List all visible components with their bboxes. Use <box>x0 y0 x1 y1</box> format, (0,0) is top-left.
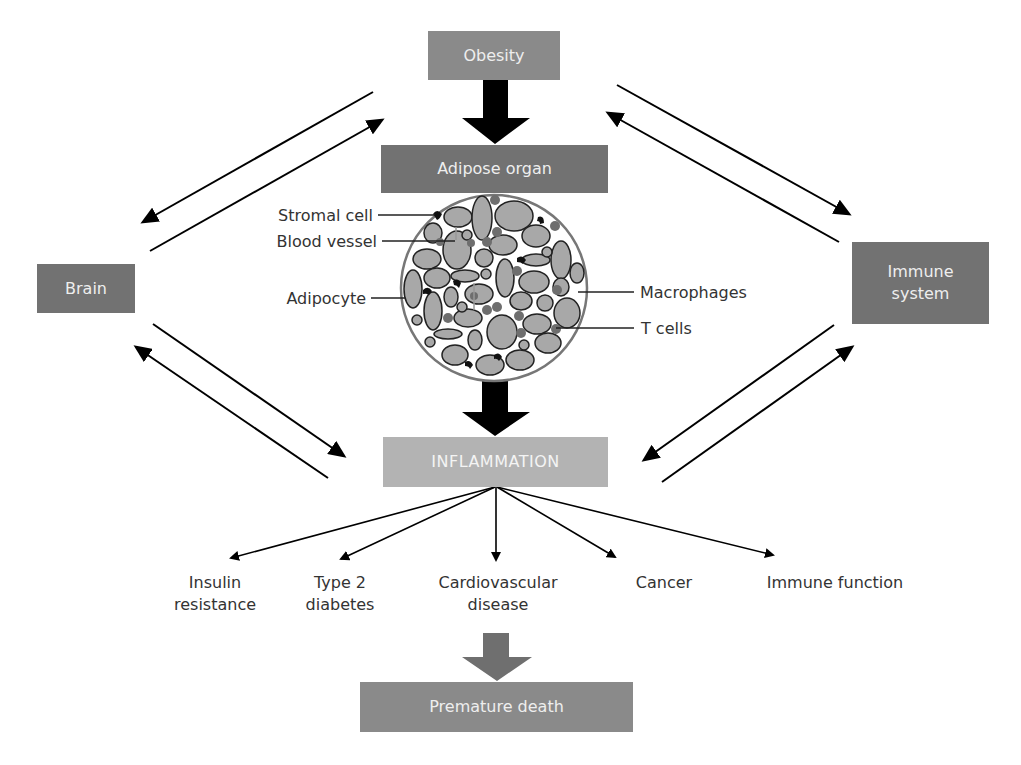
outcome-cardiovascular-disease: Cardiovascular disease <box>425 572 571 616</box>
arrow-to-premature-death <box>462 633 532 681</box>
brain-node: Brain <box>37 264 135 313</box>
outcome-line1: Cardiovascular <box>425 572 571 594</box>
diagram-connectors <box>0 0 1021 765</box>
macrophages-label: Macrophages <box>640 282 747 303</box>
outcome-line1: Cancer <box>614 572 714 594</box>
outcome-immune-function: Immune function <box>760 572 910 594</box>
outcome-cancer: Cancer <box>614 572 714 594</box>
arrow-obesity-to-adipose <box>462 80 530 144</box>
outcome-type-2-diabetes: Type 2 diabetes <box>290 572 390 616</box>
adipose-organ-node: Adipose organ <box>381 145 608 193</box>
stromal-cell-label: Stromal cell <box>278 205 373 226</box>
arrows-inflammation-outcomes <box>231 487 773 560</box>
adipose-tissue-illustration <box>401 195 587 381</box>
immune-system-node: Immune system <box>852 242 989 324</box>
premature-death-label: Premature death <box>429 696 564 718</box>
t-cells-label: T cells <box>641 318 692 339</box>
immune-system-label-line2: system <box>892 283 950 305</box>
arrows-immune-adipose <box>608 85 849 242</box>
adipose-organ-label: Adipose organ <box>437 158 552 180</box>
brain-label: Brain <box>65 278 107 300</box>
inflammation-node: INFLAMMATION <box>383 437 608 487</box>
arrow-adipose-to-inflammation <box>462 378 530 436</box>
outcome-line2: disease <box>425 594 571 616</box>
arrows-brain-adipose <box>143 92 382 251</box>
obesity-node: Obesity <box>428 31 560 80</box>
blood-vessel-label: Blood vessel <box>276 231 377 252</box>
obesity-label: Obesity <box>463 45 524 67</box>
outcome-line1: Immune function <box>760 572 910 594</box>
outcome-line1: Type 2 <box>290 572 390 594</box>
outcome-line1: Insulin <box>165 572 265 594</box>
outcome-insulin-resistance: Insulin resistance <box>165 572 265 616</box>
adipocyte-label: Adipocyte <box>286 288 366 309</box>
inflammation-label: INFLAMMATION <box>431 451 559 473</box>
arrows-immune-inflammation <box>644 325 852 482</box>
arrows-brain-inflammation <box>136 324 344 478</box>
premature-death-node: Premature death <box>360 682 633 732</box>
outcome-line2: diabetes <box>290 594 390 616</box>
immune-system-label-line1: Immune <box>887 261 953 283</box>
outcome-line2: resistance <box>165 594 265 616</box>
